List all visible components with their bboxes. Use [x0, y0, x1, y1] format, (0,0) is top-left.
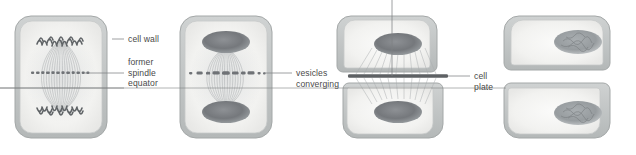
label-vesicles-converging-line-1: vesicles: [296, 68, 339, 79]
label-cell-wall: cell wall: [128, 34, 159, 44]
label-cell-plate: cell plate: [474, 71, 493, 92]
label-cell-wall-line-1: cell wall: [128, 34, 159, 44]
label-cell-plate-line-1: cell: [474, 71, 493, 82]
label-vesicles-converging: vesicles converging: [296, 68, 339, 89]
label-former-spindle-equator-line-1: former: [128, 57, 158, 68]
label-former-spindle-equator-line-3: equator: [128, 78, 158, 89]
nucleus-bottom: [554, 101, 602, 125]
panel-4-cell: [504, 16, 610, 138]
nucleus-top: [374, 33, 422, 55]
label-former-spindle-equator: former spindle equator: [128, 57, 158, 89]
nucleus-bottom: [202, 101, 250, 123]
nucleus-bottom: [374, 101, 422, 123]
panel-1-cell: [15, 16, 107, 138]
label-cell-plate-line-2: plate: [474, 82, 493, 93]
nucleus-top: [554, 30, 602, 54]
cell-plate: [348, 74, 448, 78]
panel-2-cell: [180, 16, 272, 138]
label-former-spindle-equator-line-2: spindle: [128, 68, 158, 79]
figure-canvas: cell wall former spindle equator vesicle…: [0, 0, 636, 155]
nucleus-top: [202, 31, 250, 53]
label-vesicles-converging-line-2: converging: [296, 79, 339, 90]
panel-3-cell: [337, 16, 448, 138]
